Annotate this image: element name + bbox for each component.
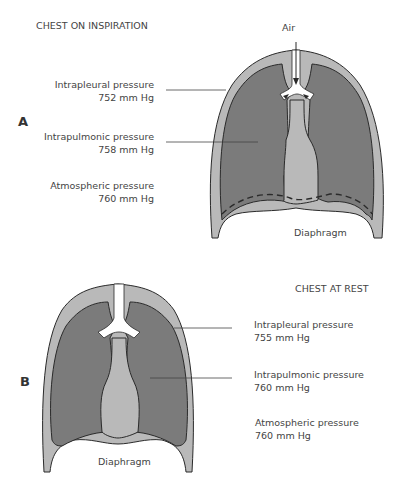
intrapleural-name-b: Intrapleural pressure [254, 318, 353, 331]
intrapleural-value-b: 755 mm Hg [254, 331, 353, 344]
atmospheric-value-a: 760 mm Hg [50, 192, 154, 205]
intrapleural-label-a: Intrapleural pressure 752 mm Hg [55, 78, 154, 104]
atmospheric-label-a: Atmospheric pressure 760 mm Hg [50, 179, 154, 205]
intrapulmonic-name-a: Intrapulmonic pressure [44, 130, 154, 143]
panel-letter-b: B [20, 374, 30, 389]
atmospheric-name-b: Atmospheric pressure [255, 416, 359, 429]
intrapleural-label-b: Intrapleural pressure 755 mm Hg [254, 318, 353, 344]
title-rest: CHEST AT REST [295, 283, 369, 294]
intrapulmonic-value-a: 758 mm Hg [44, 143, 154, 156]
intrapulmonic-name-b: Intrapulmonic pressure [254, 368, 364, 381]
atmospheric-label-b: Atmospheric pressure 760 mm Hg [255, 416, 359, 442]
chest-diagram-rest [43, 284, 232, 472]
diaphragm-label-b: Diaphragm [98, 455, 151, 468]
diaphragm-label-a: Diaphragm [294, 226, 347, 239]
intrapulmonic-label-a: Intrapulmonic pressure 758 mm Hg [44, 130, 154, 156]
intrapulmonic-value-b: 760 mm Hg [254, 381, 364, 394]
chest-diagram-inspiration [166, 42, 383, 238]
title-inspiration: CHEST ON INSPIRATION [36, 20, 148, 31]
intrapulmonic-label-b: Intrapulmonic pressure 760 mm Hg [254, 368, 364, 394]
atmospheric-value-b: 760 mm Hg [255, 429, 359, 442]
air-label: Air [282, 21, 295, 34]
intrapleural-value-a: 752 mm Hg [55, 91, 154, 104]
intrapleural-name-a: Intrapleural pressure [55, 78, 154, 91]
panel-letter-a: A [18, 114, 28, 129]
atmospheric-name-a: Atmospheric pressure [50, 179, 154, 192]
